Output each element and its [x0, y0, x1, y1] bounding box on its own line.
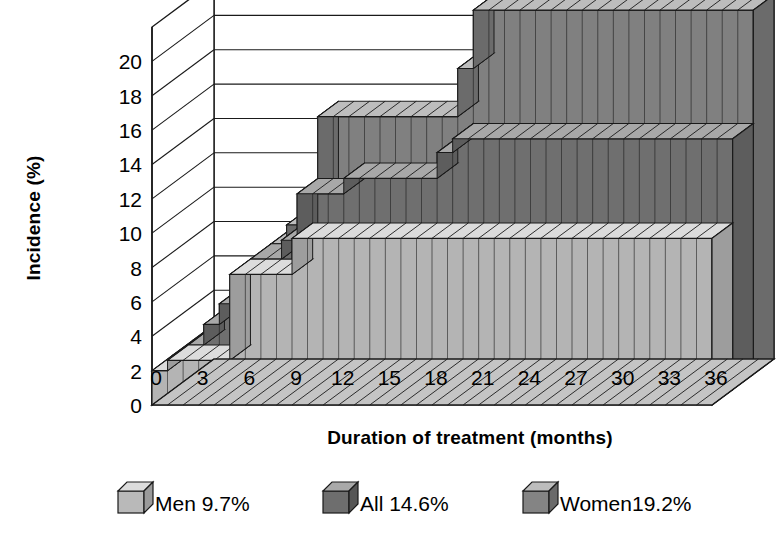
x-tick-label: 9 [290, 366, 302, 389]
y-tick-label: 6 [130, 291, 142, 314]
x-tick-label: 36 [704, 366, 727, 389]
x-tick-label: 0 [150, 366, 162, 389]
legend-item-all: All 14.6% [323, 482, 449, 515]
y-tick-label: 14 [119, 153, 143, 176]
y-tick-label: 2 [130, 360, 142, 383]
y-tick-label: 16 [119, 119, 142, 142]
legend-item-men: Men 9.7% [118, 482, 250, 515]
x-tick-label: 18 [424, 366, 447, 389]
legend-swatch-front [323, 491, 349, 513]
legend-label: All 14.6% [360, 492, 449, 515]
y-tick-label: 20 [119, 50, 142, 73]
x-tick-label: 33 [658, 366, 681, 389]
legend-swatch-front [523, 491, 549, 513]
x-tick-label: 30 [611, 366, 634, 389]
x-tick-label: 3 [197, 366, 209, 389]
y-tick-label: 8 [130, 257, 142, 280]
legend-label: Men 9.7% [155, 492, 250, 515]
chart-canvas: 02468101214161820 0369121518212427303336… [0, 0, 782, 548]
x-tick-label: 24 [518, 366, 542, 389]
y-tick-label: 12 [119, 188, 142, 211]
x-tick-label: 12 [331, 366, 354, 389]
x-tick-label: 6 [243, 366, 255, 389]
y-tick-label: 10 [119, 222, 142, 245]
y-axis-ticks: 02468101214161820 [119, 50, 143, 417]
legend-swatch-front [118, 491, 144, 513]
x-tick-label: 27 [564, 366, 587, 389]
chart-figure: 02468101214161820 0369121518212427303336… [0, 0, 782, 548]
legend-label: Women19.2% [560, 492, 692, 515]
y-tick-label: 4 [130, 325, 142, 348]
legend: Men 9.7%All 14.6%Women19.2% [118, 482, 692, 515]
x-axis-title: Duration of treatment (months) [327, 427, 613, 448]
x-tick-label: 15 [378, 366, 401, 389]
x-tick-label: 21 [471, 366, 494, 389]
legend-item-women: Women19.2% [523, 482, 692, 515]
y-tick-label: 0 [130, 394, 142, 417]
y-tick-label: 18 [119, 85, 142, 108]
y-axis-title: Incidence (%) [23, 155, 44, 280]
